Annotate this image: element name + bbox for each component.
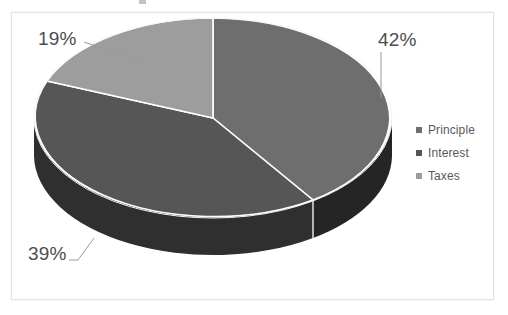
leader-line-interest (69, 238, 94, 260)
legend-label-principle: Principle (428, 123, 475, 137)
pie-chart-figure: 19% 42% 39% Principle Interest Taxes (0, 0, 508, 315)
pie-top-face (34, 18, 392, 218)
legend-item-principle[interactable]: Principle (416, 118, 492, 141)
legend-swatch-interest (416, 150, 422, 156)
legend-swatch-principle (416, 127, 422, 133)
data-label-principle: 42% (378, 29, 417, 51)
legend-swatch-taxes (416, 173, 422, 179)
legend-item-interest[interactable]: Interest (416, 141, 492, 164)
legend-item-taxes[interactable]: Taxes (416, 164, 492, 187)
legend-label-interest: Interest (428, 146, 469, 160)
legend-label-taxes: Taxes (428, 169, 460, 183)
data-label-taxes: 19% (38, 28, 77, 50)
data-label-interest: 39% (28, 243, 67, 265)
chart-legend: Principle Interest Taxes (416, 118, 492, 187)
